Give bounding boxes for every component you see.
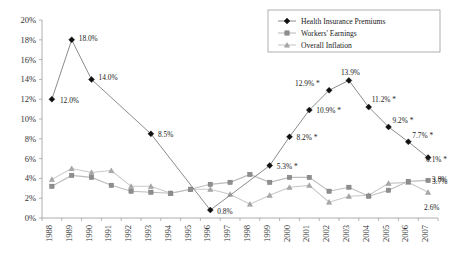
data-point	[109, 183, 113, 187]
data-point	[268, 180, 272, 184]
data-point	[287, 134, 293, 140]
x-axis-tick-label: 1998	[242, 225, 252, 242]
y-axis: 0%2%4%6%8%10%12%14%16%18%20%	[20, 15, 42, 223]
x-axis-tick-label: 1997	[222, 225, 232, 242]
data-point	[426, 178, 430, 182]
data-label: 10.9% *	[316, 106, 341, 115]
data-point	[129, 189, 133, 193]
legend-label: Overall Inflation	[301, 41, 352, 50]
line-chart: 0%2%4%6%8%10%12%14%16%18%20%198819891990…	[0, 0, 454, 263]
data-label: 2.6%	[424, 203, 439, 212]
data-point	[208, 182, 212, 186]
y-axis-tick-label: 8%	[25, 134, 36, 144]
x-axis-tick-label: 2001	[301, 225, 311, 242]
data-label: 8.5%	[158, 130, 173, 139]
x-axis-tick-label: 1993	[143, 225, 153, 242]
series-workers-earnings	[50, 172, 431, 198]
x-axis-tick-label: 2004	[361, 224, 371, 242]
data-label: 7.7% *	[412, 131, 433, 140]
legend-label: Health Insurance Premiums	[301, 17, 385, 26]
data-point	[188, 187, 192, 191]
y-axis-tick-label: 18%	[20, 35, 36, 45]
data-label: 3.7%	[432, 177, 447, 186]
data-label: 13.9%	[341, 68, 360, 77]
y-axis-tick-label: 10%	[20, 114, 36, 124]
data-label: 12.9% *	[295, 79, 320, 88]
data-label: 8.2% *	[297, 133, 318, 142]
data-point	[149, 190, 153, 194]
y-axis-tick-label: 12%	[20, 94, 36, 104]
legend: Health Insurance PremiumsWorkers' Earnin…	[268, 10, 440, 52]
data-point	[327, 189, 331, 193]
legend-marker	[285, 31, 289, 35]
y-axis-tick-label: 2%	[25, 193, 36, 203]
data-point	[307, 175, 311, 179]
x-axis-tick-label: 1996	[202, 225, 212, 242]
data-label: 18.0%	[79, 34, 98, 43]
data-point	[267, 163, 273, 169]
data-point	[287, 175, 291, 179]
x-axis-tick-label: 1999	[262, 225, 272, 242]
y-axis-tick-label: 20%	[20, 15, 36, 25]
x-axis-tick-label: 1990	[84, 225, 94, 242]
x-axis-tick-label: 1995	[183, 225, 193, 242]
y-axis-tick-label: 16%	[20, 55, 36, 65]
data-point	[247, 202, 252, 207]
series-overall-inflation	[49, 166, 430, 206]
data-point	[69, 37, 75, 43]
data-point	[406, 179, 410, 183]
x-axis: 1988198919901991199219931994199519961997…	[42, 218, 438, 242]
x-axis-tick-label: 1992	[123, 225, 133, 242]
series-health-insurance-premiums	[49, 37, 431, 213]
x-axis-tick-label: 1994	[163, 224, 173, 242]
x-axis-tick-label: 2002	[321, 225, 331, 242]
data-point	[347, 185, 351, 189]
data-label: 6.1% *	[426, 155, 447, 164]
data-point	[248, 172, 252, 176]
x-axis-tick-label: 2006	[400, 225, 410, 242]
data-point	[49, 96, 55, 102]
y-axis-tick-label: 0%	[25, 213, 36, 223]
data-label: 0.8%	[217, 207, 232, 216]
data-label: 14.0%	[99, 73, 118, 82]
data-point	[169, 191, 173, 195]
data-point	[89, 175, 93, 179]
data-point	[367, 194, 371, 198]
x-axis-tick-label: 1989	[64, 225, 74, 242]
x-axis-tick-label: 1988	[44, 225, 54, 242]
x-axis-tick-label: 2005	[381, 225, 391, 242]
y-axis-tick-label: 4%	[25, 173, 36, 183]
data-label: 9.2% *	[393, 116, 414, 125]
data-point	[426, 190, 431, 195]
data-point	[228, 180, 232, 184]
data-point	[49, 177, 54, 182]
x-axis-tick-label: 1991	[103, 225, 113, 242]
data-point	[70, 173, 74, 177]
x-axis-tick-label: 2000	[282, 225, 292, 242]
data-point	[386, 188, 390, 192]
y-axis-tick-label: 6%	[25, 154, 36, 164]
chart-container: 0%2%4%6%8%10%12%14%16%18%20%198819891990…	[0, 0, 454, 263]
y-axis-tick-label: 14%	[20, 74, 36, 84]
data-point	[346, 77, 352, 83]
legend-label: Workers' Earnings	[301, 29, 357, 38]
data-label: 11.2% *	[372, 95, 397, 104]
x-axis-tick-label: 2003	[341, 225, 351, 242]
x-axis-tick-label: 2007	[420, 225, 430, 242]
data-label: 12.0%	[60, 96, 79, 105]
data-label: 5.3% *	[277, 162, 298, 171]
data-point	[50, 184, 54, 188]
